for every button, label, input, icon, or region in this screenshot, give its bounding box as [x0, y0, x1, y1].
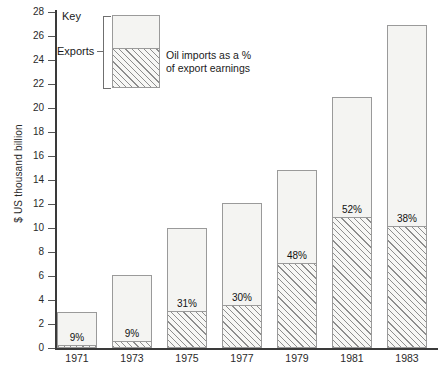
y-tick-label: 24 [22, 54, 44, 65]
legend-swatch-exports [112, 15, 160, 88]
x-tick-label-1983: 1983 [381, 352, 433, 364]
y-tick-label: 0 [22, 342, 44, 353]
bar-oil-segment-1979 [277, 263, 317, 348]
bar-oil-segment-1977 [222, 305, 262, 348]
legend-exports-label: Exports [57, 45, 94, 57]
legend-title: Key [62, 10, 81, 22]
bar-oil-segment-1973 [112, 341, 152, 348]
y-tick-mark [48, 348, 55, 349]
y-tick-label: 20 [22, 102, 44, 113]
y-tick-mark [48, 324, 55, 325]
y-tick-mark [48, 132, 55, 133]
x-tick-label-1975: 1975 [161, 352, 213, 364]
bar-oil-segment-1983 [387, 226, 427, 348]
y-tick-mark [48, 108, 55, 109]
legend-caption-line1: Oil imports as a % [166, 49, 306, 62]
legend-exports-pointer [97, 51, 104, 52]
y-tick-mark [48, 228, 55, 229]
y-tick-mark [48, 84, 55, 85]
bar-oil-segment-1971 [57, 345, 97, 348]
y-tick-label: 18 [22, 126, 44, 137]
y-tick-mark [48, 60, 55, 61]
y-tick-mark [48, 276, 55, 277]
bar-percent-label-1979: 48% [278, 250, 316, 261]
bar-1977: 30% [222, 203, 262, 348]
y-tick-mark [48, 252, 55, 253]
bar-percent-label-1981: 52% [333, 204, 371, 215]
y-tick-mark [48, 300, 55, 301]
legend-caption-line2: of export earnings [166, 62, 306, 75]
bar-percent-label-1975: 31% [168, 298, 206, 309]
bar-percent-label-1973: 9% [113, 328, 151, 339]
y-tick-mark [48, 204, 55, 205]
x-tick-label-1971: 1971 [51, 352, 103, 364]
y-axis-line [55, 10, 57, 350]
y-tick-mark [48, 156, 55, 157]
y-tick-label: 28 [22, 6, 44, 17]
y-tick-label: 8 [22, 246, 44, 257]
y-tick-label: 26 [22, 30, 44, 41]
legend-caption: Oil imports as a % of export earnings [166, 49, 306, 74]
legend-swatch-oil-imports [112, 48, 160, 88]
bar-chart: $ US thousand billion 024681012141618202… [0, 0, 441, 369]
bar-oil-segment-1975 [167, 311, 207, 348]
y-tick-label: 22 [22, 78, 44, 89]
y-tick-mark [48, 36, 55, 37]
x-axis-line [55, 348, 438, 350]
y-tick-mark [48, 12, 55, 13]
bar-1979: 48% [277, 170, 317, 348]
bar-oil-segment-1981 [332, 217, 372, 348]
x-tick-label-1979: 1979 [271, 352, 323, 364]
bar-percent-label-1977: 30% [223, 292, 261, 303]
y-tick-label: 12 [22, 198, 44, 209]
y-tick-label: 4 [22, 294, 44, 305]
bar-1981: 52% [332, 97, 372, 348]
x-tick-label-1981: 1981 [326, 352, 378, 364]
y-tick-label: 2 [22, 318, 44, 329]
bar-1975: 31% [167, 228, 207, 348]
bar-1973: 9% [112, 275, 152, 348]
y-tick-label: 6 [22, 270, 44, 281]
y-tick-mark [48, 180, 55, 181]
x-tick-label-1977: 1977 [216, 352, 268, 364]
bar-percent-label-1971: 9% [58, 332, 96, 343]
legend-bracket [103, 16, 111, 89]
x-tick-label-1973: 1973 [106, 352, 158, 364]
y-tick-label: 14 [22, 174, 44, 185]
bar-1983: 38% [387, 25, 427, 348]
y-tick-label: 16 [22, 150, 44, 161]
y-tick-label: 10 [22, 222, 44, 233]
bar-1971: 9% [57, 312, 97, 348]
bar-percent-label-1983: 38% [388, 213, 426, 224]
